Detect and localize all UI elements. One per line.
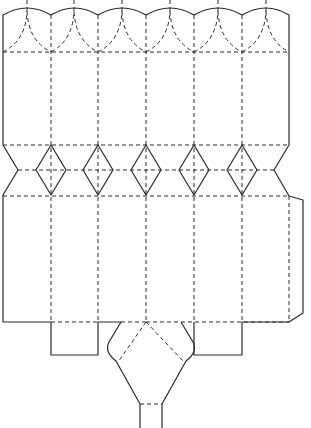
bottom-flap-cut bbox=[108, 322, 195, 428]
outline-cut bbox=[3, 8, 303, 355]
dieline-diagram bbox=[0, 0, 311, 428]
bottom-flap-folds bbox=[118, 322, 184, 362]
vertical-folds bbox=[27, 0, 289, 322]
